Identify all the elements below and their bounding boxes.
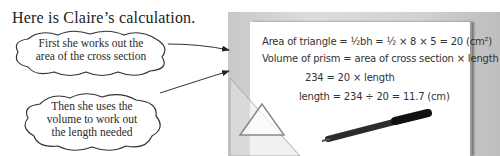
arrow-to-volume <box>160 71 229 93</box>
thought-bubble-area: First she works out the area of the cros… <box>10 27 170 77</box>
arrow-to-area <box>168 44 229 50</box>
bubble-2-line-2: volume to work out <box>28 113 156 126</box>
bubble-2-line-1: Then she uses the <box>28 100 156 113</box>
bubble-2-line-3: the length needed <box>28 126 156 139</box>
bubble-1-line-1: First she works out the <box>20 37 162 50</box>
thought-bubble-volume: Then she uses the volume to work out the… <box>18 88 166 154</box>
bubble-1-line-2: area of the cross section <box>20 50 162 63</box>
